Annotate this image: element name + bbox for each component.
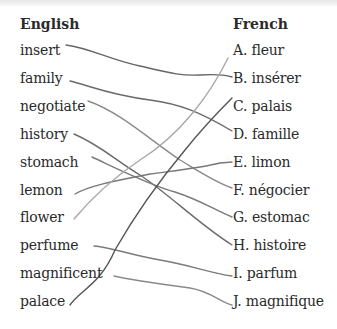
french-word: F. négocier xyxy=(233,182,309,198)
english-word: magnificent xyxy=(20,265,102,281)
english-word: flower xyxy=(20,209,64,225)
english-word: palace xyxy=(20,293,65,309)
english-word: history xyxy=(20,126,68,142)
english-word: lemon xyxy=(20,182,62,198)
line-insert-inserer xyxy=(66,45,232,77)
french-word: D. famille xyxy=(233,126,299,142)
french-word: I. parfum xyxy=(233,265,297,281)
english-header: English xyxy=(20,16,79,32)
french-word: H. histoire xyxy=(233,237,306,253)
french-word: B. insérer xyxy=(233,70,301,86)
line-stomach-estomac xyxy=(92,157,232,217)
english-word: family xyxy=(20,70,62,86)
french-word: E. limon xyxy=(233,154,290,170)
french-word: G. estomac xyxy=(233,209,310,225)
english-word: stomach xyxy=(20,154,78,170)
french-word: J. magnifique xyxy=(233,293,324,309)
line-magnificent-magnifique xyxy=(114,276,232,305)
line-negotiate-negocier xyxy=(88,101,232,188)
french-word: A. fleur xyxy=(233,42,284,58)
english-word: negotiate xyxy=(20,98,85,114)
french-header: French xyxy=(233,16,288,32)
english-word: insert xyxy=(20,42,60,58)
english-word: perfume xyxy=(20,237,78,253)
french-word: C. palais xyxy=(233,98,292,114)
line-lemon-limon xyxy=(75,162,232,194)
